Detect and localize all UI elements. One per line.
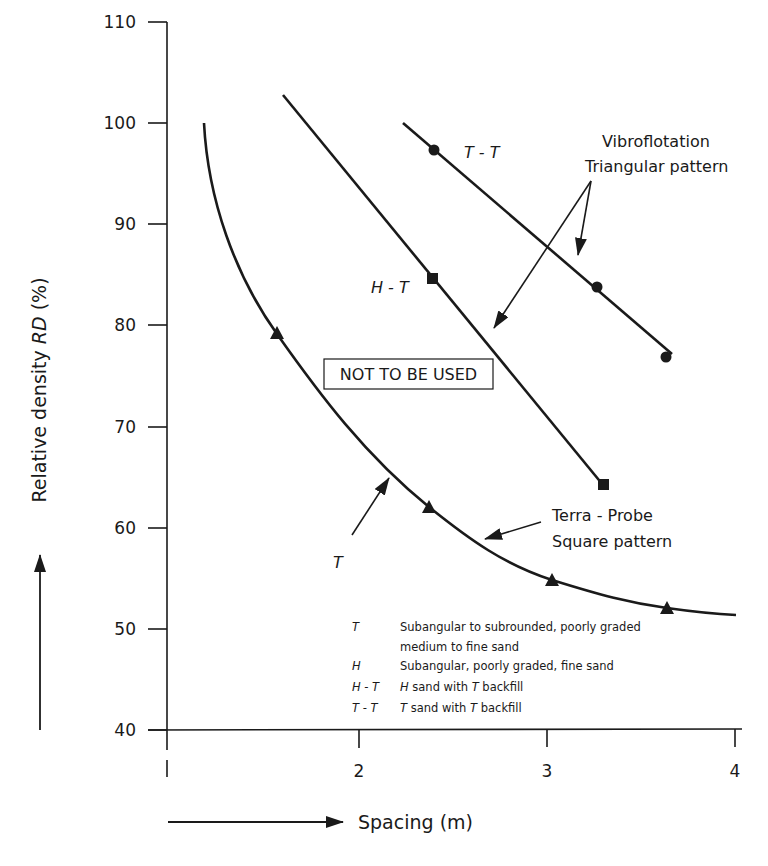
terra-probe-annotation: Terra - Probe Square pattern bbox=[485, 506, 672, 551]
y-tick-label: 70 bbox=[114, 417, 136, 437]
x-tick-label: 4 bbox=[730, 761, 741, 781]
x-tick-label: 3 bbox=[542, 761, 553, 781]
y-tick-label: 100 bbox=[104, 113, 136, 133]
series-ht: H - T bbox=[283, 95, 609, 490]
square-marker-icon bbox=[598, 479, 609, 490]
not-used-label: NOT TO BE USED bbox=[340, 365, 477, 384]
legend-key: T bbox=[352, 620, 360, 634]
t-pointer-arrow-icon bbox=[352, 478, 389, 535]
y-tick-label: 90 bbox=[114, 214, 136, 234]
legend-text: medium to fine sand bbox=[400, 640, 519, 654]
y-title-rd: RD bbox=[28, 316, 50, 344]
svg-text:Relative density RD (%): Relative density RD (%) bbox=[28, 277, 50, 502]
legend-key: H - T bbox=[352, 680, 380, 694]
y-tick-label: 110 bbox=[104, 12, 136, 32]
legend-text: Subangular to subrounded, poorly graded bbox=[400, 620, 641, 634]
legend-text: H sand with T backfill bbox=[400, 680, 523, 694]
x-title-text: Spacing (m) bbox=[358, 811, 473, 833]
legend-key: H bbox=[352, 659, 361, 673]
y-axis-title: Relative density RD (%) bbox=[28, 277, 50, 730]
vibro-arrow-icon bbox=[494, 181, 591, 328]
y-tick-label: 40 bbox=[114, 720, 136, 740]
y-title-unit: (%) bbox=[28, 277, 50, 316]
legend-key: T - T bbox=[352, 701, 378, 715]
ht-label: H - T bbox=[371, 278, 410, 297]
not-to-be-used-box: NOT TO BE USED bbox=[324, 359, 493, 389]
circle-marker-icon bbox=[661, 352, 672, 363]
chart: 110 100 90 80 70 60 50 40 2 3 4 Relative… bbox=[0, 0, 768, 866]
y-axis: 110 100 90 80 70 60 50 40 bbox=[104, 12, 167, 777]
square-marker-icon bbox=[427, 273, 438, 284]
circle-marker-icon bbox=[429, 145, 440, 156]
t-label: T bbox=[333, 553, 344, 572]
legend-text: T sand with T backfill bbox=[400, 701, 522, 715]
legend: T Subangular to subrounded, poorly grade… bbox=[352, 620, 641, 715]
x-tick-label: 2 bbox=[354, 761, 365, 781]
y-title-text: Relative density bbox=[28, 344, 50, 502]
terra-arrow-icon bbox=[485, 522, 541, 539]
circle-marker-icon bbox=[592, 282, 603, 293]
y-tick-label: 80 bbox=[114, 315, 136, 335]
terra-label-line1: Terra - Probe bbox=[551, 506, 653, 525]
y-tick-label: 60 bbox=[114, 518, 136, 538]
x-axis: 2 3 4 bbox=[148, 729, 742, 781]
terra-label-line2: Square pattern bbox=[552, 532, 672, 551]
tt-label: T - T bbox=[464, 143, 501, 162]
y-ticks bbox=[148, 22, 167, 730]
vibro-label-line1: Vibroflotation bbox=[602, 132, 710, 151]
x-axis-title: Spacing (m) bbox=[168, 811, 473, 833]
vibro-label-line2: Triangular pattern bbox=[584, 157, 728, 176]
legend-text: Subangular, poorly graded, fine sand bbox=[400, 659, 614, 673]
y-tick-label: 50 bbox=[114, 619, 136, 639]
